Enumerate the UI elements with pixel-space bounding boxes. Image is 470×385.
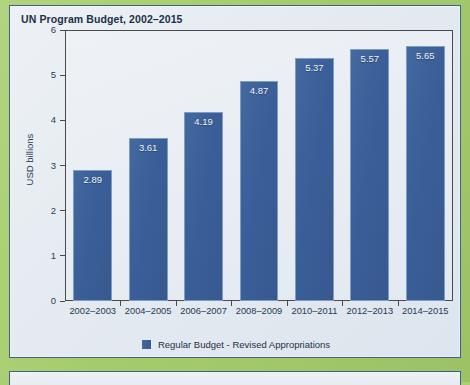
x-axis-tick-label: 2012–2013 [342, 306, 397, 316]
legend-label: Regular Budget - Revised Appropriations [158, 339, 330, 350]
legend-swatch-icon [142, 340, 151, 349]
chart-legend: Regular Budget - Revised Appropriations [10, 339, 462, 350]
bar-value-label: 4.19 [185, 116, 222, 127]
y-axis-title: USD billions [24, 110, 35, 210]
x-axis-tick-label: 2006–2007 [176, 306, 231, 316]
bar-value-label: 5.37 [296, 62, 333, 73]
x-axis-tick-label: 2004–2005 [120, 306, 175, 316]
x-axis-tick-label: 2014–2015 [398, 306, 453, 316]
bar: 4.19 [184, 112, 223, 301]
secondary-card [9, 371, 461, 385]
bar-value-label: 3.61 [130, 142, 167, 153]
x-axis-tick-mark [287, 301, 288, 306]
x-axis-tick-mark [176, 301, 177, 306]
bar-series: 2.893.614.194.875.375.575.65 [65, 30, 453, 301]
x-axis-tick-label: 2008–2009 [231, 306, 286, 316]
y-axis-tick-label: 2 [51, 204, 56, 217]
x-axis-tick-mark [342, 301, 343, 306]
y-axis-tick-label: 5 [51, 68, 56, 81]
bar: 5.65 [406, 46, 445, 301]
x-axis-tick-label: 2010–2011 [287, 306, 342, 316]
bar: 2.89 [73, 170, 112, 301]
x-axis-tick-label: 2002–2003 [65, 306, 120, 316]
y-axis-tick-label: 3 [51, 159, 56, 172]
y-axis-tick-label: 1 [51, 249, 56, 262]
y-axis-tick-label: 0 [51, 294, 56, 307]
x-axis-tick-mark [120, 301, 121, 306]
chart-plot-wrapper: USD billions 0123456 2.893.614.194.875.3… [10, 6, 462, 359]
bar-value-label: 2.89 [74, 174, 111, 185]
y-axis-tick-label: 6 [51, 23, 56, 36]
x-axis-tick-mark [231, 301, 232, 306]
bar-value-label: 4.87 [241, 85, 278, 96]
bar: 3.61 [129, 138, 168, 301]
y-axis-tick-label: 4 [51, 113, 56, 126]
bar-value-label: 5.57 [351, 53, 388, 64]
bar: 4.87 [240, 81, 279, 301]
bar-value-label: 5.65 [407, 50, 444, 61]
x-axis-tick-mark [398, 301, 399, 306]
chart-card: UN Program Budget, 2002–2015 USD billion… [9, 5, 461, 358]
bar: 5.37 [295, 58, 334, 301]
x-axis-labels: 2002–20032004–20052006–20072008–20092010… [65, 306, 453, 320]
bar: 5.57 [350, 49, 389, 301]
